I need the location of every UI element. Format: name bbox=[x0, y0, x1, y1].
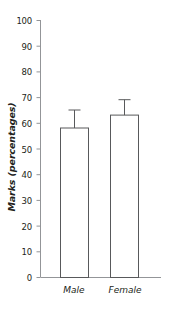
y-axis-ticks bbox=[37, 21, 41, 278]
bar-female bbox=[111, 115, 139, 277]
plot-area bbox=[0, 0, 171, 313]
bar-chart: Marks (percentages) 100 90 80 70 60 50 4… bbox=[0, 0, 171, 313]
bar-male bbox=[61, 128, 89, 278]
